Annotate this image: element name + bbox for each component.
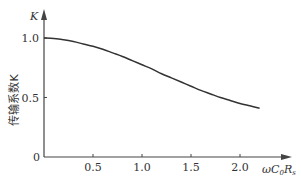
x-axis-title: ωC0Rs: [262, 163, 296, 176]
x-tick-label: 0.5: [84, 161, 102, 174]
origin-label: 0: [33, 151, 40, 164]
ticks: [44, 38, 240, 157]
x-tick-label: 1.0: [133, 161, 151, 174]
y-axis-symbol: K: [29, 10, 39, 23]
x-axis-arrow-icon: [281, 154, 292, 160]
y-axis-title: 传输系数K: [7, 74, 21, 126]
x-tick-label: 2.0: [231, 161, 249, 174]
data-series-line: [44, 38, 260, 108]
tick-labels: 0.51.01.52.00.51.0: [22, 32, 249, 174]
axes: [41, 9, 292, 160]
y-tick-label: 1.0: [22, 32, 40, 45]
chart: 0.51.01.52.00.51.0 K 0 传输系数K ωC0Rs: [0, 0, 301, 176]
y-tick-label: 0.5: [22, 92, 40, 105]
x-tick-label: 1.5: [182, 161, 200, 174]
y-axis-arrow-icon: [41, 9, 47, 20]
